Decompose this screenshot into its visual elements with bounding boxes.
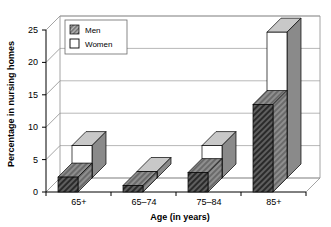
x-label-1: 65–74	[131, 197, 156, 207]
y-tick-10: 10	[28, 122, 38, 132]
y-tick-25: 25	[28, 25, 38, 35]
bar-men-85plus	[253, 91, 287, 193]
y-tick-20: 20	[28, 57, 38, 67]
y-tick-0: 0	[33, 187, 38, 197]
legend-label-men: Men	[85, 26, 101, 35]
chart-canvas: 0 5 10 15 20 25	[0, 0, 331, 227]
x-label-2: 75–84	[196, 197, 221, 207]
nursing-home-bar-chart: 0 5 10 15 20 25	[0, 0, 331, 227]
y-tick-15: 15	[28, 90, 38, 100]
x-label-0: 65+	[71, 197, 86, 207]
y-tick-5: 5	[33, 155, 38, 165]
legend-label-women: Women	[85, 40, 112, 49]
legend-swatch-men	[70, 25, 79, 34]
y-axis-title: Percentage in nursing homes	[6, 41, 16, 167]
legend-swatch-women	[70, 39, 79, 48]
x-axis-title: Age (in years)	[150, 212, 210, 222]
legend: Men Women	[65, 20, 127, 54]
x-label-3: 85+	[266, 197, 281, 207]
